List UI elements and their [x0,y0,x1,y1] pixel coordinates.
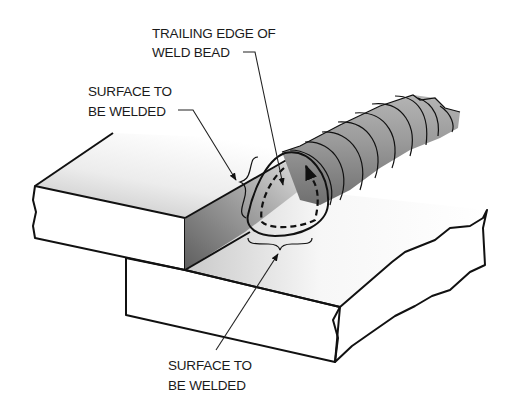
label-trailing-edge-line1: TRAILING EDGE OF [152,26,276,41]
label-surface-upper-line2: BE WELDED [88,104,166,119]
label-surface-lower-line2: BE WELDED [168,378,246,393]
weld-bead-body [282,95,460,205]
lap-weld-diagram: TRAILING EDGE OF WELD BEAD SURFACE TO BE… [0,0,515,411]
weld-bead [282,95,460,205]
label-trailing-edge-line2: WELD BEAD [152,45,230,60]
label-surface-lower-line1: SURFACE TO [168,358,252,373]
label-surface-upper-line1: SURFACE TO [88,84,172,99]
